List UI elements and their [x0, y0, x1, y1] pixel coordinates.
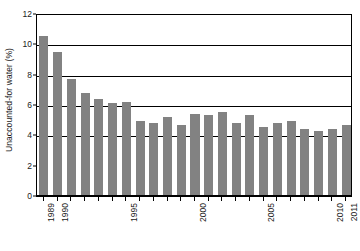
x-axis-ticks: [36, 196, 352, 201]
x-tick-mark: [180, 196, 181, 201]
x-tick-mark: [125, 196, 126, 201]
bar: [273, 123, 282, 195]
bar: [232, 123, 241, 195]
x-tick-mark: [43, 196, 44, 201]
bar: [190, 114, 199, 195]
bar: [53, 52, 62, 195]
bar: [136, 121, 145, 195]
bars-layer: [37, 15, 351, 195]
bar: [81, 93, 90, 195]
x-tick-mark: [290, 196, 291, 201]
bar: [218, 112, 227, 195]
x-tick-mark: [331, 196, 332, 201]
y-axis-title: Unaccounted-for water (%): [0, 0, 18, 200]
y-tick-label: 10: [23, 39, 32, 49]
bar: [122, 102, 131, 195]
x-tick-mark: [112, 196, 113, 201]
y-tick-label: 2: [27, 161, 32, 171]
x-tick-mark: [208, 196, 209, 201]
x-tick-mark: [345, 196, 346, 201]
x-tick-label: 2010: [335, 203, 345, 222]
bar: [245, 115, 254, 195]
bar-chart: Unaccounted-for water (%) 024681012 1989…: [0, 0, 360, 251]
x-axis-tick-labels: 1989199019952000200520102011: [36, 203, 352, 251]
bar: [204, 115, 213, 195]
bar: [39, 36, 48, 195]
y-tick-label: 8: [27, 70, 32, 80]
x-tick-mark: [84, 196, 85, 201]
x-tick-mark: [57, 196, 58, 201]
y-tick-label: 0: [27, 191, 32, 201]
bar: [94, 99, 103, 195]
x-tick-label: 1990: [60, 203, 70, 222]
y-axis-tick-labels: 024681012: [18, 0, 36, 251]
x-tick-label: 2005: [266, 203, 276, 222]
y-tick-label: 4: [27, 130, 32, 140]
bar: [328, 129, 337, 195]
x-tick-mark: [235, 196, 236, 201]
bar: [108, 103, 117, 195]
bar: [67, 79, 76, 195]
y-tick-label: 12: [23, 9, 32, 19]
x-tick-label: 1989: [46, 203, 56, 222]
bar: [163, 117, 172, 195]
bar: [342, 125, 351, 195]
x-tick-label: 2000: [198, 203, 208, 222]
x-tick-mark: [276, 196, 277, 201]
bar: [300, 129, 309, 195]
x-tick-mark: [167, 196, 168, 201]
x-tick-mark: [221, 196, 222, 201]
x-tick-mark: [304, 196, 305, 201]
x-tick-label: 2011: [349, 203, 359, 221]
x-tick-mark: [263, 196, 264, 201]
plot-area: [36, 14, 352, 196]
x-tick-mark: [98, 196, 99, 201]
x-tick-mark: [70, 196, 71, 201]
y-axis-title-label: Unaccounted-for water (%): [4, 48, 14, 152]
x-tick-label: 1995: [129, 203, 139, 222]
x-tick-mark: [249, 196, 250, 201]
bar: [149, 123, 158, 195]
bar: [314, 131, 323, 195]
bar: [177, 125, 186, 195]
x-tick-mark: [139, 196, 140, 201]
bar: [287, 121, 296, 195]
bar: [259, 127, 268, 195]
x-tick-mark: [153, 196, 154, 201]
x-tick-mark: [194, 196, 195, 201]
y-tick-label: 6: [27, 100, 32, 110]
x-tick-mark: [318, 196, 319, 201]
